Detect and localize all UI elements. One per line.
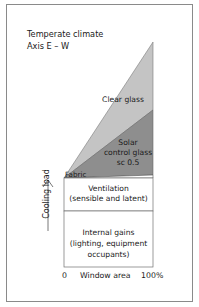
y-axis-label: Cooling load <box>42 164 54 224</box>
internal-gains-label-line2: (lighting, equipment <box>64 238 153 249</box>
solar-control-label: Solar control glass sc 0.5 <box>100 138 156 168</box>
ventilation-label-line2: (sensible and latent) <box>64 194 153 204</box>
internal-gains-label-line3: occupants) <box>64 249 153 260</box>
ventilation-label-line1: Ventilation <box>64 184 153 194</box>
internal-gains-label: Internal gains (lighting, equipment occu… <box>64 227 153 260</box>
internal-gains-label-line1: Internal gains <box>64 227 153 238</box>
x-axis-min-label: 0 <box>62 271 67 280</box>
solar-control-label-line2: control glass <box>100 148 156 158</box>
x-axis-max-label: 100% <box>141 271 163 280</box>
fabric-label: Fabric <box>65 170 86 180</box>
solar-control-label-line1: Solar <box>100 138 156 148</box>
x-axis-label: Window area <box>80 271 131 280</box>
solar-control-label-line3: sc 0.5 <box>100 158 156 168</box>
ventilation-label: Ventilation (sensible and latent) <box>64 184 153 204</box>
clear-glass-label: Clear glass <box>93 95 153 105</box>
